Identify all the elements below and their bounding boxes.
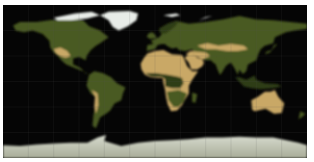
world-map-canvas[interactable] — [3, 5, 307, 158]
world-map[interactable] — [3, 5, 307, 158]
